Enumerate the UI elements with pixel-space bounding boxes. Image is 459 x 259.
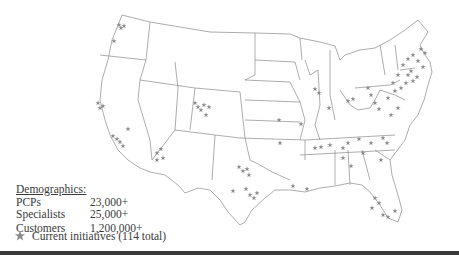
row-label: PCPs (16, 196, 90, 208)
demographics-row-pcps: PCPs 23,000+ (16, 196, 143, 208)
row-value: 23,000+ (90, 196, 128, 208)
demographics-legend: Demographics: PCPs 23,000+ Specialists 2… (16, 183, 143, 234)
demographics-title: Demographics: (16, 183, 143, 195)
states-outline (100, 15, 432, 225)
row-label: Specialists (16, 208, 90, 220)
initiatives-key: Current initiatives (114 total) (14, 230, 166, 242)
demographics-row-specialists: Specialists 25,000+ (16, 208, 143, 220)
bottom-rule (0, 251, 459, 255)
initiatives-label: Current initiatives (114 total) (32, 230, 166, 242)
row-value: 25,000+ (90, 208, 128, 220)
star-icon (14, 230, 26, 242)
